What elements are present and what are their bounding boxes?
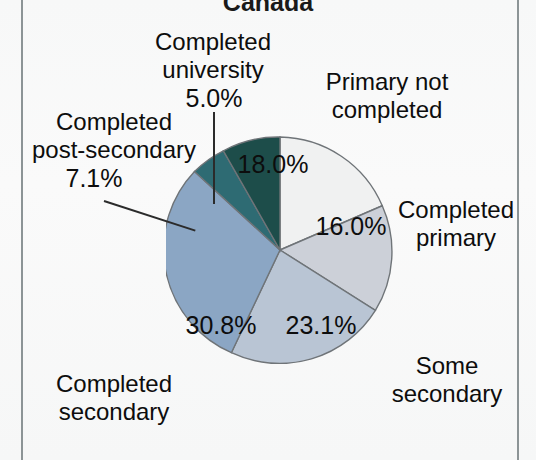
slice-label-some-secondary: Some secondary xyxy=(372,352,522,408)
slice-value-completed-primary: 16.0% xyxy=(306,212,396,241)
slice-label-completed-secondary: Completed secondary xyxy=(14,370,214,426)
slice-value-primary-not-completed: 18.0% xyxy=(228,150,318,179)
slice-label-completed-post-secondary: Completed post-secondary xyxy=(8,108,220,164)
slice-value-completed-secondary: 30.8% xyxy=(176,311,266,340)
chart-title: Canada xyxy=(0,0,536,17)
slice-label-completed-university: Completed university xyxy=(118,28,308,84)
slice-value-some-secondary: 23.1% xyxy=(276,311,366,340)
pie-chart-figure: Canada Completed university 5.0% Complet… xyxy=(0,0,536,460)
slice-value-completed-post-secondary: 7.1% xyxy=(56,164,132,193)
slice-label-primary-not-completed: Primary not completed xyxy=(292,68,482,124)
slice-label-completed-primary: Completed primary xyxy=(382,196,530,252)
